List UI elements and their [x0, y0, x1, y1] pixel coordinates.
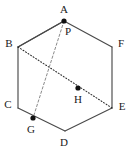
vertex-label-d: D [60, 136, 68, 148]
edge-f-a [64, 21, 112, 47]
point-label-p: P [65, 25, 71, 37]
hexagon-outline [18, 21, 112, 131]
vertex-label-a: A [60, 3, 68, 15]
geometry-figure: A B C D E F P G H [0, 0, 132, 153]
point-dot-a [61, 18, 66, 23]
point-dot-h [75, 85, 80, 90]
marked-points [30, 18, 80, 120]
dotted-line-b-to-e [18, 47, 112, 108]
edge-d-e [65, 108, 112, 131]
point-label-g: G [27, 123, 35, 135]
vertex-label-c: C [4, 98, 11, 110]
vertex-label-e: E [119, 100, 126, 112]
hexagon-diagram-svg: A B C D E F P G H [0, 0, 132, 153]
vertex-label-b: B [5, 37, 12, 49]
point-label-h: H [74, 93, 82, 105]
point-dot-g [30, 115, 35, 120]
vertex-label-f: F [118, 37, 124, 49]
edge-c-d [18, 108, 65, 131]
